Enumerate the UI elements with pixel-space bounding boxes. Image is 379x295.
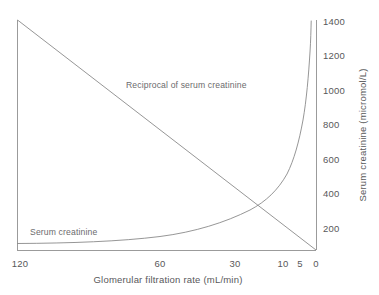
series-line-reciprocal-of-serum-creatinine [18, 20, 317, 250]
x-tick-label-120: 120 [12, 258, 28, 269]
y-tick-label-200: 200 [323, 223, 339, 234]
series-label-reciprocal-of-serum-creatinine: Reciprocal of serum creatinine [126, 80, 247, 90]
chart-figure: 120 60 30 10 5 0 200 400 600 800 1000 12… [0, 0, 379, 295]
y-tick-label-1400: 1400 [323, 16, 345, 27]
chart-plot-area [0, 0, 379, 295]
y-tick-label-600: 600 [323, 154, 339, 165]
x-tick-label-30: 30 [230, 258, 241, 269]
y-axis-title: Serum creatinine (micromol/L) [357, 68, 368, 201]
x-tick-label-5: 5 [297, 258, 302, 269]
x-axis-title: Glomerular filtration rate (mL/min) [93, 274, 242, 285]
y-tick-label-1200: 1200 [323, 50, 345, 61]
y-tick-label-1000: 1000 [323, 85, 345, 96]
x-tick-label-10: 10 [278, 258, 289, 269]
x-tick-label-0: 0 [313, 258, 318, 269]
y-tick-label-400: 400 [323, 188, 339, 199]
y-tick-label-800: 800 [323, 119, 339, 130]
x-tick-label-60: 60 [155, 258, 166, 269]
series-label-serum-creatinine: Serum creatinine [30, 227, 97, 237]
